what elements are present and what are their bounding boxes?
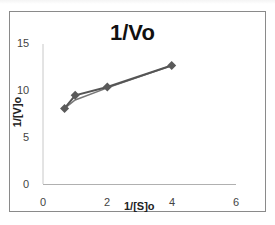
- plot-area: [0, 0, 275, 225]
- series-line: [65, 65, 172, 108]
- series-line: [65, 65, 172, 108]
- diamond-marker: [103, 82, 112, 91]
- diamond-marker: [167, 61, 176, 70]
- data-series: [60, 61, 176, 113]
